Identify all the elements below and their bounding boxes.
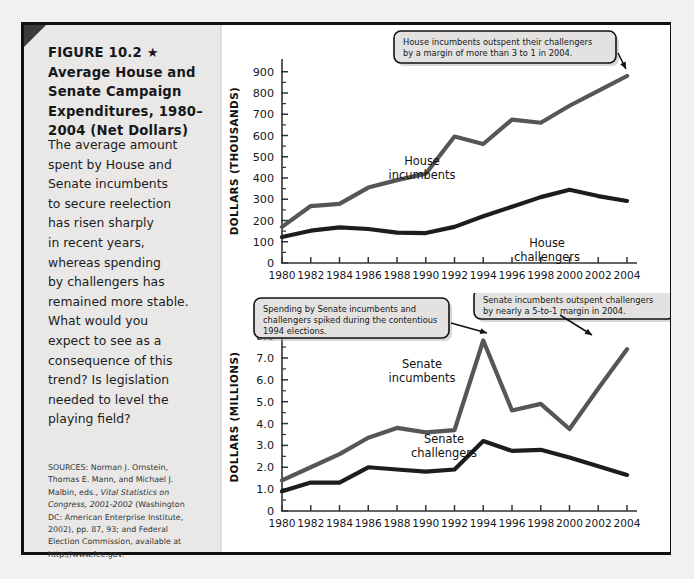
y-tick-label: 600	[253, 130, 274, 143]
y-tick-label: 800	[253, 87, 274, 100]
x-tick-label: 2002	[585, 517, 612, 529]
y-axis-title: DOLLARS (THOUSANDS)	[228, 87, 240, 235]
x-tick-label: 1984	[326, 269, 353, 281]
y-tick-label: 5.0	[256, 396, 274, 409]
y-tick-label: 6.0	[256, 374, 274, 387]
x-tick-label: 1994	[470, 517, 497, 529]
series-label-house-challengers: House	[529, 236, 565, 250]
x-tick-label: 1980	[269, 517, 296, 529]
callout-text-line: House incumbents outspent their challeng…	[403, 37, 592, 47]
house-chart-svg: 0100200300400500600700800900198019821984…	[222, 25, 670, 293]
figure-description-line: What would you	[48, 311, 210, 331]
callout-box	[394, 31, 616, 63]
figure-title: FIGURE 10.2 ★Average House andSenate Cam…	[48, 43, 208, 141]
y-tick-label: 7.0	[256, 352, 274, 365]
callout-text-line: 1994 elections.	[263, 326, 327, 336]
figure-title-line: Average House and	[48, 63, 208, 83]
figure-sources-line: 2002), pp. 87, 93; and Federal	[48, 524, 214, 536]
figure-title-line: FIGURE 10.2 ★	[48, 43, 208, 63]
figure-description: The average amountspent by House andSena…	[48, 135, 210, 429]
series-label-house-incumbents: House	[404, 154, 440, 168]
figure-description-line: trend? Is legislation	[48, 370, 210, 390]
annotation-senate-callout-right: Senate incumbents outspent challengersby…	[474, 293, 670, 335]
callout-text-line: Spending by Senate incumbents and	[263, 304, 416, 314]
y-tick-label: 2.0	[256, 461, 274, 474]
x-tick-label: 1980	[269, 269, 296, 281]
series-label-house-incumbents: incumbents	[389, 168, 456, 182]
x-tick-label: 1982	[297, 517, 324, 529]
callout-text-line: by nearly a 5-to-1 margin in 2004.	[483, 306, 626, 316]
y-tick-label: 900	[253, 66, 274, 79]
x-tick-label: 1984	[326, 517, 353, 529]
figure-sources: SOURCES: Norman J. Ornstein,Thomas E. Ma…	[48, 462, 214, 561]
figure-caption-panel: FIGURE 10.2 ★Average House andSenate Cam…	[24, 25, 220, 552]
figure-description-line: in recent years,	[48, 233, 210, 253]
figure-description-line: has risen sharply	[48, 213, 210, 233]
corner-fold-icon	[24, 25, 46, 47]
series-label-house-challengers: challengers	[514, 250, 580, 264]
figure-description-line: Senate incumbents	[48, 174, 210, 194]
x-tick-label: 1996	[499, 269, 526, 281]
figure-description-line: consequence of this	[48, 351, 210, 371]
figure-title-line: Senate Campaign	[48, 82, 208, 102]
y-tick-label: 4.0	[256, 418, 274, 431]
y-tick-label: 700	[253, 108, 274, 121]
figure-sources-line: Election Commission, available at	[48, 536, 214, 548]
callout-text-line: by a margin of more than 3 to 1 in 2004.	[403, 48, 572, 58]
y-tick-label: 1.0	[256, 483, 274, 496]
figure-title-line: Expenditures, 1980–	[48, 102, 208, 122]
figure-description-line: playing field?	[48, 409, 210, 429]
callout-text-line: Senate incumbents outspent challengers	[483, 295, 653, 305]
x-tick-label: 1996	[499, 517, 526, 529]
y-tick-label: 500	[253, 151, 274, 164]
x-tick-label: 1982	[297, 269, 324, 281]
figure-sources-line: DC: American Enterprise Institute,	[48, 512, 214, 524]
figure-sources-line: Malbin, eds., Vital Statistics on	[48, 487, 214, 499]
y-tick-label: 200	[253, 215, 274, 228]
x-tick-label: 1986	[355, 269, 382, 281]
figure-description-line: to secure reelection	[48, 194, 210, 214]
annotation-senate-callout-left: Spending by Senate incumbents andchallen…	[254, 298, 487, 341]
x-tick-label: 1990	[412, 269, 439, 281]
y-tick-label: 300	[253, 193, 274, 206]
charts-container: 0100200300400500600700800900198019821984…	[222, 25, 670, 552]
annotation-house-callout: House incumbents outspent their challeng…	[394, 31, 626, 69]
x-tick-label: 2004	[614, 517, 641, 529]
figure-sources-line: Congress, 2001-2002 (Washington	[48, 499, 214, 511]
y-tick-label: 400	[253, 172, 274, 185]
series-label-senate-incumbents: incumbents	[389, 371, 456, 385]
x-tick-label: 1988	[384, 517, 411, 529]
y-axis-title: DOLLARS (MILLIONS)	[228, 352, 240, 483]
x-tick-label: 2002	[585, 269, 612, 281]
figure-description-line: expect to see as a	[48, 331, 210, 351]
callout-text-line: challengers spiked during the contentiou…	[263, 315, 437, 325]
x-tick-label: 1998	[527, 269, 554, 281]
series-label-senate-challengers: Senate	[424, 432, 464, 446]
x-tick-label: 1986	[355, 517, 382, 529]
figure-sources-line: Thomas E. Mann, and Michael J.	[48, 474, 214, 486]
chart-house: 0100200300400500600700800900198019821984…	[222, 25, 670, 293]
x-tick-label: 1990	[412, 517, 439, 529]
figure-page: FIGURE 10.2 ★Average House andSenate Cam…	[0, 0, 694, 579]
x-tick-label: 1992	[441, 269, 468, 281]
series-label-senate-challengers: challengers	[411, 446, 477, 460]
x-tick-label: 2004	[614, 269, 641, 281]
series-label-senate-incumbents: Senate	[402, 357, 442, 371]
y-tick-label: 100	[253, 236, 274, 249]
figure-description-line: remained more stable.	[48, 292, 210, 312]
y-tick-label: 3.0	[256, 439, 274, 452]
figure-description-line: whereas spending	[48, 253, 210, 273]
figure-description-line: by challengers has	[48, 272, 210, 292]
figure-description-line: spent by House and	[48, 155, 210, 175]
senate-chart-svg: 01.02.03.04.05.06.07.08.0198019821984198…	[222, 293, 670, 552]
chart-senate: 01.02.03.04.05.06.07.08.0198019821984198…	[222, 293, 670, 552]
figure-frame: FIGURE 10.2 ★Average House andSenate Cam…	[21, 22, 671, 555]
x-tick-label: 1998	[527, 517, 554, 529]
figure-sources-line: http://www.fec.gov.	[48, 549, 214, 561]
x-tick-label: 1994	[470, 269, 497, 281]
x-tick-label: 2000	[556, 517, 583, 529]
figure-sources-line: SOURCES: Norman J. Ornstein,	[48, 462, 214, 474]
x-tick-label: 1988	[384, 269, 411, 281]
figure-description-line: needed to level the	[48, 390, 210, 410]
x-tick-label: 1992	[441, 517, 468, 529]
